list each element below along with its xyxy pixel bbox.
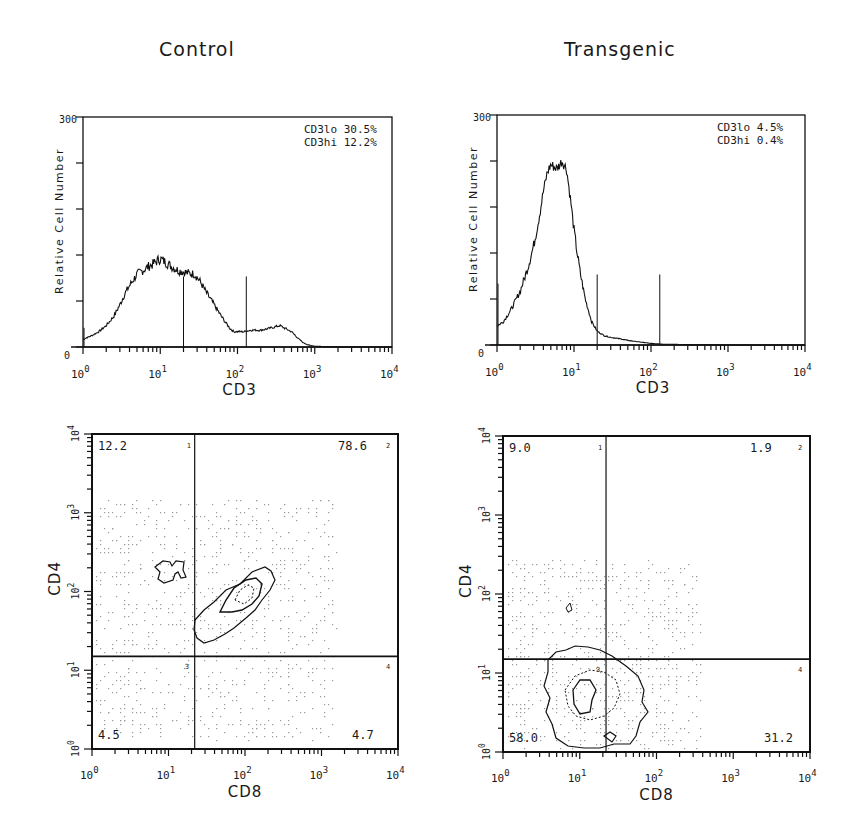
- density-dot: [284, 568, 285, 569]
- density-dot: [212, 524, 213, 525]
- density-dot: [220, 516, 221, 517]
- density-dot: [572, 576, 573, 577]
- density-dot: [288, 628, 289, 629]
- density-dot: [284, 516, 285, 517]
- density-dot: [268, 652, 269, 653]
- density-dot: [580, 592, 581, 593]
- x-tick-label: 100: [71, 364, 90, 381]
- density-dot: [508, 716, 509, 717]
- density-dot: [540, 612, 541, 613]
- density-dot: [268, 668, 269, 669]
- density-dot: [596, 604, 597, 605]
- density-dot: [264, 684, 265, 685]
- density-dot: [516, 716, 517, 717]
- density-dot: [656, 732, 657, 733]
- density-dot: [544, 580, 545, 581]
- density-dot: [132, 640, 133, 641]
- density-dot: [668, 588, 669, 589]
- density-dot: [240, 632, 241, 633]
- density-dot: [240, 612, 241, 613]
- density-dot: [296, 664, 297, 665]
- density-dot: [508, 592, 509, 593]
- y-tick-label: 104: [478, 427, 492, 444]
- density-dot: [640, 672, 641, 673]
- density-dot: [176, 580, 177, 581]
- quadrant-1-value: 12.2: [98, 439, 127, 453]
- density-dot: [180, 604, 181, 605]
- density-dot: [560, 724, 561, 725]
- density-dot: [144, 648, 145, 649]
- density-dot: [596, 576, 597, 577]
- cd3lo-annotation: CD3lo 30.5%: [304, 123, 377, 136]
- x-tick-label: 103: [721, 768, 740, 785]
- density-dot: [120, 536, 121, 537]
- density-dot: [628, 656, 629, 657]
- density-dot: [312, 672, 313, 673]
- density-dot: [268, 608, 269, 609]
- density-dot: [636, 716, 637, 717]
- density-dot: [660, 684, 661, 685]
- density-dot: [128, 684, 129, 685]
- density-dot: [576, 656, 577, 657]
- density-dot: [592, 572, 593, 573]
- density-dot: [216, 724, 217, 725]
- x-tick-label: 101: [148, 364, 167, 381]
- density-dot: [208, 696, 209, 697]
- density-dot: [192, 564, 193, 565]
- density-dot: [272, 672, 273, 673]
- density-dot: [296, 560, 297, 561]
- density-dot: [588, 684, 589, 685]
- density-dot: [136, 644, 137, 645]
- density-dot: [644, 616, 645, 617]
- density-dot: [216, 684, 217, 685]
- x-tick-label: 104: [386, 765, 405, 782]
- density-dot: [316, 528, 317, 529]
- density-dot: [624, 572, 625, 573]
- density-dot: [656, 724, 657, 725]
- density-dot: [628, 576, 629, 577]
- density-dot: [184, 700, 185, 701]
- density-dot: [552, 560, 553, 561]
- density-dot: [176, 536, 177, 537]
- density-dot: [688, 620, 689, 621]
- density-dot: [288, 548, 289, 549]
- density-dot: [196, 676, 197, 677]
- density-dot: [608, 576, 609, 577]
- density-dot: [152, 708, 153, 709]
- density-dot: [220, 548, 221, 549]
- density-dot: [668, 628, 669, 629]
- density-dot: [272, 564, 273, 565]
- density-dot: [664, 628, 665, 629]
- quadrant-2-value: 78.6: [338, 439, 367, 453]
- density-dot: [112, 512, 113, 513]
- density-dot: [648, 560, 649, 561]
- x-tick-label: 101: [568, 768, 587, 785]
- density-dot: [144, 524, 145, 525]
- density-dot: [332, 668, 333, 669]
- density-dot: [580, 724, 581, 725]
- density-dot: [100, 616, 101, 617]
- density-dot: [604, 732, 605, 733]
- density-dot: [268, 708, 269, 709]
- density-dot: [512, 596, 513, 597]
- density-dot: [664, 616, 665, 617]
- density-dot: [128, 544, 129, 545]
- quadrant-4-value: 4.7: [352, 728, 374, 742]
- density-dot: [148, 584, 149, 585]
- density-dot: [312, 548, 313, 549]
- density-dot: [584, 672, 585, 673]
- density-dot: [216, 660, 217, 661]
- density-dot: [324, 716, 325, 717]
- density-dot: [192, 708, 193, 709]
- density-dot: [272, 552, 273, 553]
- density-dot: [152, 576, 153, 577]
- density-dot: [544, 708, 545, 709]
- density-dot: [288, 580, 289, 581]
- density-dot: [696, 676, 697, 677]
- quadrant-3-id: 3: [596, 666, 600, 674]
- density-dot: [656, 644, 657, 645]
- density-dot: [152, 560, 153, 561]
- density-dot: [240, 512, 241, 513]
- density-dot: [236, 620, 237, 621]
- density-dot: [304, 616, 305, 617]
